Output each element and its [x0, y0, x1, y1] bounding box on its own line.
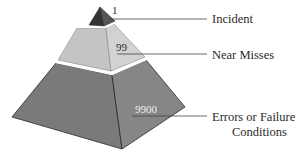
label-incident: Incident — [212, 12, 253, 26]
heinrich-pyramid-diagram: 1 99 9900 Incident Near Misses Errors or… — [0, 0, 305, 166]
count-errors: 9900 — [135, 103, 158, 115]
label-near-misses: Near Misses — [212, 48, 274, 62]
count-incident: 1 — [112, 4, 118, 16]
bottom-tier-left-face — [12, 63, 122, 149]
label-errors-line2: Conditions — [232, 125, 287, 139]
pyramid-tier-bottom — [12, 60, 185, 149]
count-near-misses: 99 — [116, 41, 128, 53]
label-errors-line1: Errors or Failure — [212, 110, 296, 124]
